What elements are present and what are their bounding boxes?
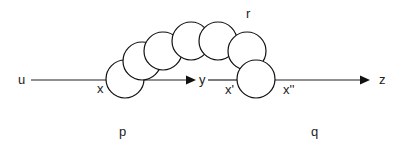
label-x-prime: x' [225, 82, 234, 97]
label-p: p [119, 124, 126, 139]
label-u: u [18, 72, 25, 87]
circle-chain [106, 22, 275, 98]
label-x: x [97, 81, 104, 96]
diagram-svg: u x y x' x'' z r p q [0, 0, 410, 153]
label-x-double-prime: x'' [283, 82, 294, 97]
arrowhead-z-icon [360, 76, 370, 85]
label-y: y [199, 72, 206, 87]
chain-circle-7 [237, 60, 275, 98]
label-r: r [246, 6, 251, 21]
label-q: q [311, 124, 318, 139]
label-z: z [379, 72, 386, 87]
diagram-canvas: u x y x' x'' z r p q [0, 0, 410, 153]
arrowhead-y-icon [186, 76, 196, 85]
